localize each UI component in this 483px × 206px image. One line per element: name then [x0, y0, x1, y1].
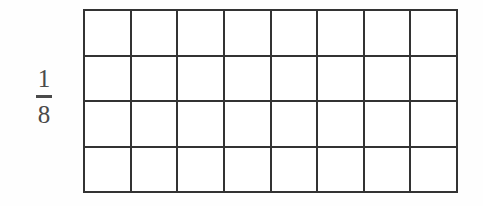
- grid-cell[interactable]: [411, 57, 458, 103]
- fraction-label: 1 8: [22, 66, 66, 128]
- grid-cell[interactable]: [132, 57, 179, 103]
- fraction-denominator: 8: [22, 102, 66, 128]
- fraction-bar-icon: [36, 95, 52, 98]
- grid-cell[interactable]: [178, 57, 225, 103]
- grid-cell[interactable]: [365, 57, 412, 103]
- grid-cell[interactable]: [225, 102, 272, 148]
- grid-cell[interactable]: [85, 11, 132, 57]
- grid-cell[interactable]: [272, 148, 319, 194]
- grid-cell[interactable]: [225, 148, 272, 194]
- rectangle-grid: [83, 9, 458, 193]
- grid-cell[interactable]: [272, 57, 319, 103]
- grid-cell[interactable]: [85, 102, 132, 148]
- grid-cell[interactable]: [225, 57, 272, 103]
- grid-cell[interactable]: [272, 11, 319, 57]
- grid-cell[interactable]: [318, 102, 365, 148]
- grid-cell[interactable]: [178, 148, 225, 194]
- grid-cell[interactable]: [132, 102, 179, 148]
- fraction-numerator: 1: [22, 66, 66, 92]
- grid-cell[interactable]: [178, 102, 225, 148]
- grid-cell[interactable]: [365, 11, 412, 57]
- grid-cell[interactable]: [411, 11, 458, 57]
- grid-cell[interactable]: [365, 148, 412, 194]
- grid-cell[interactable]: [318, 148, 365, 194]
- grid-cell[interactable]: [178, 11, 225, 57]
- grid-cell[interactable]: [411, 102, 458, 148]
- grid-cell[interactable]: [85, 148, 132, 194]
- grid-cell[interactable]: [132, 148, 179, 194]
- grid-cell[interactable]: [85, 57, 132, 103]
- grid-cell[interactable]: [132, 11, 179, 57]
- grid-cell[interactable]: [365, 102, 412, 148]
- grid-cell[interactable]: [272, 102, 319, 148]
- grid-cell[interactable]: [318, 57, 365, 103]
- grid-cell[interactable]: [318, 11, 365, 57]
- grid-cell[interactable]: [225, 11, 272, 57]
- grid-cell[interactable]: [411, 148, 458, 194]
- fraction-area-model-figure: 1 8: [0, 0, 483, 206]
